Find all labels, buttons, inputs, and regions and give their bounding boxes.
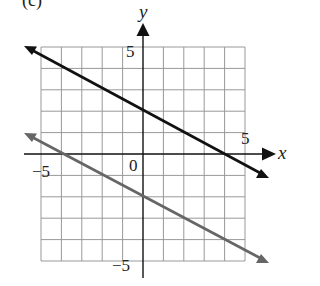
x-tick-neg5: −5 — [32, 163, 50, 180]
origin-label: 0 — [129, 157, 138, 174]
y-tick-5: 5 — [126, 43, 135, 60]
x-tick-5: 5 — [241, 130, 250, 147]
x-axis-label: x — [278, 143, 286, 162]
y-axis-arrow-icon — [137, 23, 150, 36]
axes — [24, 36, 262, 278]
gray-line-right-arrow-icon — [256, 254, 269, 263]
y-tick-neg5: −5 — [112, 257, 130, 274]
y-axis-label: y — [139, 2, 147, 21]
x-axis-arrow-icon — [262, 148, 276, 161]
